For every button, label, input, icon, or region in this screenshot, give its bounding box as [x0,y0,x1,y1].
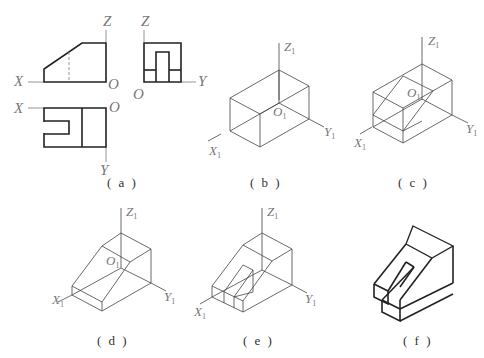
panel-b-box [208,43,324,147]
label-x1-c: X1 [354,136,366,152]
front-view [44,43,106,82]
label-y1-e: Y1 [305,292,316,308]
label-o1-d: O1 [106,254,119,270]
side-view [144,43,181,82]
label-o-side: O [133,87,144,102]
label-x1-b: X1 [209,144,221,160]
label-y-side: Y [198,74,206,89]
caption-d: ( d ) [97,334,129,347]
top-view [44,108,106,147]
label-o-front: O [108,77,119,92]
label-x-top: X [14,101,23,116]
label-x1-e: X1 [194,305,206,321]
caption-c: ( c ) [398,176,429,189]
caption-a: ( a ) [107,176,138,189]
panel-a-views [28,30,196,162]
label-y1-b: Y1 [324,125,335,141]
label-o-top: O [109,100,120,115]
label-x-front: X [14,74,23,89]
label-z1-c: Z1 [428,34,439,50]
panel-f-finished [374,226,453,321]
caption-f: ( f ) [403,334,433,347]
label-y1-c: Y1 [466,122,477,138]
label-x1-d: X1 [52,293,64,309]
panel-e-slot [200,208,307,312]
label-o1-b: O1 [273,105,286,121]
label-y1-d: Y1 [164,290,175,306]
label-z1-e: Z1 [267,205,278,221]
label-z-side: Z [141,14,149,29]
label-z1-b: Z1 [284,40,295,56]
label-o1-c: O1 [407,86,420,102]
caption-e: ( e ) [243,334,274,347]
label-z-front: Z [103,14,111,29]
label-z1-d: Z1 [126,205,137,221]
caption-b: ( b ) [250,176,282,189]
